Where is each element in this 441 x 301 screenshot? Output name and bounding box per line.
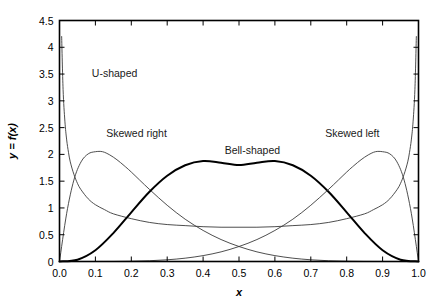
annotation-skewed-right: Skewed right <box>106 127 167 139</box>
annotation-bell-shaped: Bell-shaped <box>225 144 281 156</box>
x-tick-label: 0.7 <box>303 267 318 279</box>
y-tick-label: 3 <box>48 95 54 107</box>
x-tick-label: 0.3 <box>160 267 175 279</box>
y-tick-label: 4.5 <box>39 15 54 27</box>
y-tick-label: 1 <box>48 202 54 214</box>
y-tick-label: 4 <box>48 41 54 53</box>
annotation-skewed-left: Skewed left <box>325 127 379 139</box>
y-tick-label: 0 <box>48 256 54 268</box>
x-tick-label: 1.0 <box>411 267 426 279</box>
y-tick-label: 2 <box>48 148 54 160</box>
y-tick-label: 0.5 <box>39 229 54 241</box>
x-tick-label: 0.6 <box>268 267 283 279</box>
distribution-shapes-chart: 0.00.10.20.30.40.50.60.70.80.91.0 00.511… <box>0 0 441 301</box>
annotation-u-shaped: U-shaped <box>92 67 138 79</box>
x-tick-label: 0.0 <box>52 267 67 279</box>
x-tick-label: 0.5 <box>232 267 247 279</box>
x-tick-label: 0.4 <box>196 267 211 279</box>
y-tick-label: 3.5 <box>39 68 54 80</box>
y-axis-title: y = f(x) <box>6 123 18 160</box>
x-tick-label: 0.9 <box>375 267 390 279</box>
y-tick-label: 1.5 <box>39 175 54 187</box>
y-tick-label: 2.5 <box>39 122 54 134</box>
x-tick-label: 0.2 <box>124 267 139 279</box>
x-tick-label: 0.1 <box>88 267 103 279</box>
x-tick-label: 0.8 <box>339 267 354 279</box>
chart-background <box>0 0 441 301</box>
chart-figure: 0.00.10.20.30.40.50.60.70.80.91.0 00.511… <box>0 0 441 301</box>
x-axis-title: x <box>235 286 243 298</box>
